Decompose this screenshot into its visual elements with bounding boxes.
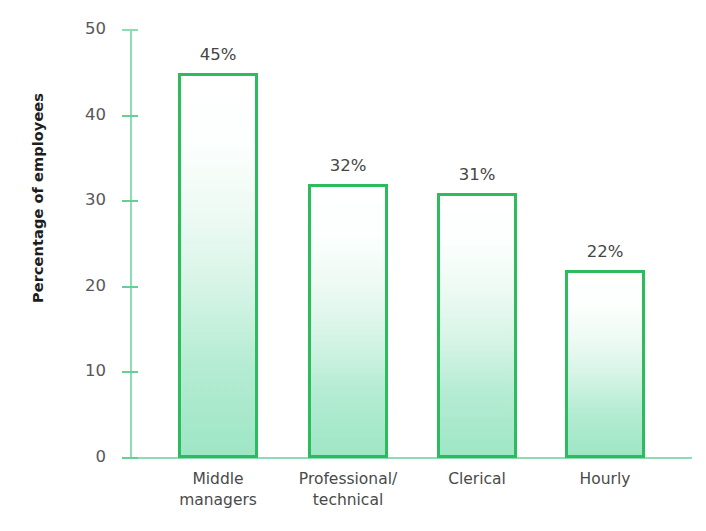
y-tick-label: 0 — [60, 449, 106, 466]
bar-chart: Percentage of employees 01020304050 45%3… — [0, 0, 706, 531]
bar — [565, 270, 645, 458]
bar — [178, 73, 258, 458]
y-tick-mark — [122, 286, 138, 288]
y-tick-label: 20 — [60, 278, 106, 295]
bar — [308, 184, 388, 458]
y-tick-label: 50 — [60, 21, 106, 38]
plot-area: 01020304050 45%32%31%22% Middle managers… — [0, 0, 706, 531]
bar-value-label: 45% — [158, 47, 278, 64]
bar-value-label: 32% — [288, 158, 408, 175]
bar — [437, 193, 517, 458]
y-tick-label: 40 — [60, 107, 106, 124]
bar-value-label: 22% — [545, 244, 665, 261]
y-axis-line — [130, 30, 132, 459]
y-tick-mark — [122, 200, 138, 202]
y-tick-label: 10 — [60, 363, 106, 380]
x-category-label: Professional/ technical — [273, 469, 423, 510]
y-tick-mark — [122, 371, 138, 373]
y-tick-mark — [122, 115, 138, 117]
x-category-label: Middle managers — [143, 469, 293, 510]
y-tick-mark — [122, 29, 138, 31]
x-category-label: Hourly — [530, 469, 680, 490]
bar-value-label: 31% — [417, 167, 537, 184]
y-tick-label: 30 — [60, 192, 106, 209]
y-tick-mark — [122, 457, 138, 459]
